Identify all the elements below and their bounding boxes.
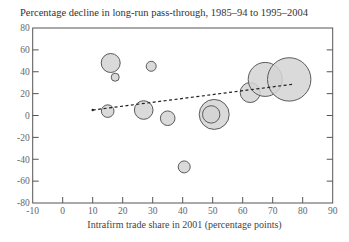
y-tick-label: 20 [20, 89, 30, 99]
bubble-series [101, 54, 311, 173]
bubble [160, 111, 175, 126]
trend-start-marker [92, 109, 94, 111]
bubble-chart-plot: -100102030405060708090 -80-60-40-2002040… [0, 0, 349, 242]
bubble [146, 61, 156, 71]
bubble [178, 161, 190, 173]
y-tick-label: -20 [17, 133, 30, 143]
x-tick-label: 70 [268, 206, 278, 216]
x-axis-ticks: -100102030405060708090 [26, 197, 337, 216]
y-tick-label: 60 [20, 45, 30, 55]
y-tick-label: 80 [20, 23, 30, 33]
x-tick-label: 90 [328, 206, 338, 216]
y-tick-label: -60 [17, 176, 30, 186]
x-tick-label: 20 [118, 206, 128, 216]
y-tick-label: 40 [20, 67, 30, 77]
y-tick-label: -80 [17, 198, 30, 208]
bubble [268, 58, 311, 101]
x-tick-label: 30 [148, 206, 158, 216]
y-tick-label: 0 [25, 111, 30, 121]
bubble [111, 73, 119, 81]
y-tick-label: -40 [17, 155, 30, 165]
plot-frame [33, 28, 333, 203]
bubble [101, 54, 120, 73]
x-tick-label: 60 [238, 206, 248, 216]
bubble [101, 105, 114, 118]
bubble [203, 106, 220, 123]
x-tick-label: 50 [208, 206, 218, 216]
x-tick-label: 80 [298, 206, 308, 216]
x-tick-label: 10 [88, 206, 98, 216]
x-axis-label: Intrafirm trade share in 2001 (percentag… [0, 219, 349, 230]
x-tick-label: 40 [178, 206, 188, 216]
trend-line [93, 84, 293, 110]
x-tick-label: 0 [60, 206, 65, 216]
